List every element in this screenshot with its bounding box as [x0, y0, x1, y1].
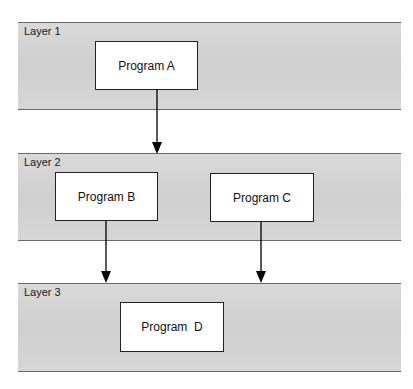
layer-2-label: Layer 2: [24, 156, 61, 168]
program-c-label: Program C: [233, 191, 291, 205]
layer-1-band: Layer 1: [18, 22, 401, 110]
program-b-label: Program B: [78, 190, 135, 204]
layer-1-label: Layer 1: [24, 25, 61, 37]
program-c-box: Program C: [210, 173, 314, 222]
layer-3-label: Layer 3: [24, 286, 61, 298]
program-a-label: Program A: [118, 59, 175, 73]
program-d-box: Program D: [120, 302, 224, 352]
program-d-label: Program D: [141, 320, 202, 334]
program-a-box: Program A: [95, 41, 198, 90]
program-b-box: Program B: [55, 172, 158, 221]
